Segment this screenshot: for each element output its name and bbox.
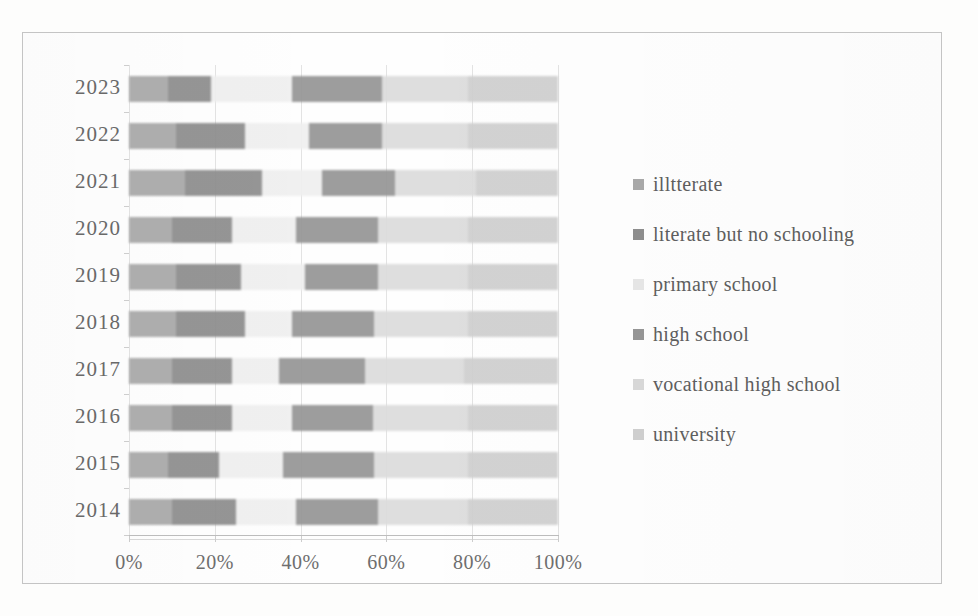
bar-segment[interactable] <box>168 76 211 102</box>
bar-segment[interactable] <box>464 358 558 384</box>
x-axis-tick <box>386 536 387 542</box>
bar-segment[interactable] <box>378 264 468 290</box>
legend-item[interactable]: literate but no schooling <box>633 223 933 246</box>
bar-segment[interactable] <box>245 311 292 337</box>
bar-segment[interactable] <box>211 76 293 102</box>
bar-row[interactable] <box>129 358 558 384</box>
bar-segment[interactable] <box>365 358 464 384</box>
bar-segment[interactable] <box>382 76 468 102</box>
bar-segment[interactable] <box>283 452 373 478</box>
bar-segment[interactable] <box>322 170 395 196</box>
bar-segment[interactable] <box>129 358 172 384</box>
bar-segment[interactable] <box>374 452 468 478</box>
bar-row[interactable] <box>129 311 558 337</box>
bar-segment[interactable] <box>279 358 365 384</box>
bar-segment[interactable] <box>468 217 558 243</box>
bar-segment[interactable] <box>129 405 172 431</box>
bar-segment[interactable] <box>468 405 558 431</box>
legend-item[interactable]: vocational high school <box>633 373 933 396</box>
x-axis-tick <box>558 536 559 542</box>
bar-segment[interactable] <box>168 452 219 478</box>
x-axis-tick-label: 0% <box>94 551 164 574</box>
bar-segment[interactable] <box>219 452 283 478</box>
x-axis-tick <box>301 536 302 542</box>
bar-segment[interactable] <box>292 405 374 431</box>
bar-segment[interactable] <box>176 311 245 337</box>
bar-segment[interactable] <box>395 170 477 196</box>
bar-segment[interactable] <box>468 123 558 149</box>
legend-label: literate but no schooling <box>653 223 854 246</box>
chart-legend: illtterateliterate but no schoolingprima… <box>633 173 933 473</box>
bar-segment[interactable] <box>468 499 558 525</box>
bar-segment[interactable] <box>129 311 176 337</box>
bar-segment[interactable] <box>172 358 232 384</box>
bar-segment[interactable] <box>129 499 172 525</box>
y-axis-tick-label: 2018 <box>33 310 121 335</box>
bar-segment[interactable] <box>468 452 558 478</box>
bar-segment[interactable] <box>296 217 378 243</box>
legend-item[interactable]: illtterate <box>633 173 933 196</box>
bar-segment[interactable] <box>476 170 558 196</box>
legend-item[interactable]: university <box>633 423 933 446</box>
bar-row[interactable] <box>129 217 558 243</box>
bar-segment[interactable] <box>129 452 168 478</box>
bar-segment[interactable] <box>296 499 378 525</box>
bar-segment[interactable] <box>378 499 468 525</box>
y-axis-tick <box>124 206 129 207</box>
y-axis-tick-label: 2017 <box>33 357 121 382</box>
bar-segment[interactable] <box>382 123 468 149</box>
x-axis-tick-label: 20% <box>180 551 250 574</box>
y-axis-tick <box>124 488 129 489</box>
bar-segment[interactable] <box>262 170 322 196</box>
bar-segment[interactable] <box>172 405 232 431</box>
bar-segment[interactable] <box>129 264 176 290</box>
bar-segment[interactable] <box>468 264 558 290</box>
bar-segment[interactable] <box>236 499 296 525</box>
bar-segment[interactable] <box>468 311 558 337</box>
bar-segment[interactable] <box>129 217 172 243</box>
y-axis-tick-label: 2015 <box>33 451 121 476</box>
bar-segment[interactable] <box>129 123 176 149</box>
bar-segment[interactable] <box>232 358 279 384</box>
y-axis-tick-label: 2023 <box>33 75 121 100</box>
legend-item[interactable]: primary school <box>633 273 933 296</box>
y-axis-tick <box>124 112 129 113</box>
bar-segment[interactable] <box>245 123 309 149</box>
bar-segment[interactable] <box>129 170 185 196</box>
y-axis-tick <box>124 300 129 301</box>
bar-segment[interactable] <box>374 311 468 337</box>
bar-segment[interactable] <box>185 170 262 196</box>
bar-segment[interactable] <box>305 264 378 290</box>
bar-segment[interactable] <box>309 123 382 149</box>
legend-label: vocational high school <box>653 373 841 396</box>
x-axis-tick-label: 80% <box>437 551 507 574</box>
bar-row[interactable] <box>129 170 558 196</box>
bar-row[interactable] <box>129 264 558 290</box>
bar-row[interactable] <box>129 499 558 525</box>
x-axis-tick <box>129 536 130 542</box>
x-axis-line <box>129 535 559 536</box>
y-axis-tick <box>124 65 129 66</box>
bar-row[interactable] <box>129 76 558 102</box>
bar-row[interactable] <box>129 405 558 431</box>
legend-item[interactable]: high school <box>633 323 933 346</box>
bar-segment[interactable] <box>468 76 558 102</box>
bar-segment[interactable] <box>172 499 236 525</box>
bar-segment[interactable] <box>176 123 245 149</box>
legend-label: high school <box>653 323 749 346</box>
bar-segment[interactable] <box>241 264 305 290</box>
bar-row[interactable] <box>129 452 558 478</box>
bar-segment[interactable] <box>129 76 168 102</box>
bar-segment[interactable] <box>232 217 296 243</box>
bar-segment[interactable] <box>176 264 240 290</box>
bar-segment[interactable] <box>172 217 232 243</box>
bar-segment[interactable] <box>378 217 468 243</box>
bar-segment[interactable] <box>232 405 292 431</box>
legend-swatch-icon <box>633 229 644 240</box>
legend-label: primary school <box>653 273 778 296</box>
bar-segment[interactable] <box>373 405 467 431</box>
bar-segment[interactable] <box>292 76 382 102</box>
bar-row[interactable] <box>129 123 558 149</box>
x-axis-tick-label: 100% <box>523 551 593 574</box>
bar-segment[interactable] <box>292 311 374 337</box>
